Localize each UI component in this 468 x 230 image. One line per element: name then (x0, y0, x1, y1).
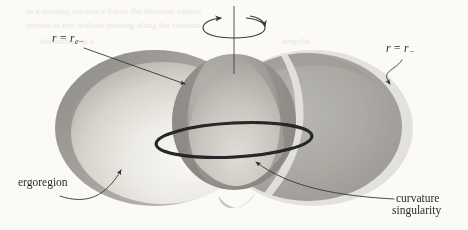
kerr-geometry-group (55, 6, 413, 208)
label-inner-horizon: r = r− (386, 42, 415, 56)
diagram-canvas: in a rotating reference frame the observ… (0, 0, 468, 230)
svg-text:singular: singular (282, 36, 311, 46)
label-ergoregion: ergoregion (18, 176, 68, 189)
kerr-black-hole-diagram: in a rotating reference frame the observ… (0, 0, 468, 230)
svg-text:in a rotating reference: in a rotating reference frame the observ… (26, 6, 202, 16)
svg-text:remain at rest without mov: remain at rest without moving along the … (26, 20, 201, 30)
label-curvature-singularity: curvature singularity (392, 192, 442, 217)
